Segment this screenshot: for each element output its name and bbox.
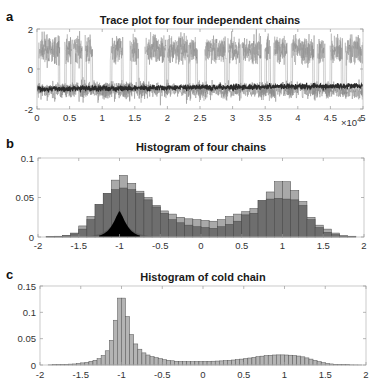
histogram-bar [136,194,144,237]
x-tick-label: 5 [360,112,365,123]
histogram-bar [217,227,225,237]
histogram-bar [240,359,244,365]
histogram-bar [293,356,297,365]
y-tick-label: 0 [29,232,34,243]
x-tick-label: 2 [165,112,170,123]
histogram-bar [117,298,121,365]
histogram-bar [244,359,248,365]
histogram-bar [142,353,146,365]
histogram-bar [177,223,185,237]
histogram-bar [79,229,87,237]
x-tick-label: 0 [34,112,39,123]
histogram-bar [313,360,317,365]
histogram-bar [280,355,284,365]
histogram-four-chains: -2-1.5-1-0.500.511.5200.050.1 [16,153,367,252]
histogram-bar [258,201,266,237]
histogram-bar [291,200,299,237]
x-tick-label: 4.5 [324,112,337,123]
x-tick-label: 1.5 [317,240,330,251]
histogram-bar [305,358,309,365]
x-tick-label: 2 [361,240,366,251]
x-tick-label: 2 [363,369,368,380]
x-tick-label: -1 [117,369,125,380]
x-tick-label: 0.5 [237,369,250,380]
axes-frame [40,286,366,365]
x-tick-label: 1 [280,240,285,251]
histogram-bar [323,232,331,237]
histogram-bar [215,361,219,365]
x-multiplier: ×104 [341,116,361,128]
histogram-bar [268,355,272,365]
figure: a Trace plot for four independent chains… [0,0,379,391]
histogram-bar [158,359,162,365]
histogram-bar [219,361,223,365]
histogram-bar [144,200,152,237]
histogram-bar [242,215,250,237]
histogram-bar [101,356,105,365]
x-tick-label: 2.5 [193,112,206,123]
y-tick-label: 0 [31,360,36,371]
y-tick-label: -2 [25,104,33,115]
x-tick-label: -0.5 [152,240,168,251]
histogram-bar [283,199,291,237]
histogram-bar [113,320,117,365]
histogram-bar [309,359,313,365]
x-tick-label: 0.5 [235,240,248,251]
histogram-bar [183,362,187,365]
histogram-bar [207,361,211,365]
x-tick-label: -2 [34,240,42,251]
y-tick-label: 0.05 [16,192,35,203]
histogram-bar [225,224,233,237]
panel-c-title: Histogram of cold chain [140,271,266,283]
histogram-bar [234,221,242,237]
y-tick-label: 2 [28,24,33,35]
histogram-bar [266,199,274,237]
trace-plot: 00.511.522.533.544.55-202 [25,24,366,124]
histogram-bar [201,228,209,237]
histogram-bar [122,298,126,365]
histogram-bar [71,234,79,237]
histogram-bar [301,357,305,365]
x-tick-label: 1.5 [319,369,332,380]
x-tick-label: 0 [200,369,205,380]
histogram-bar [162,360,166,365]
histogram-bar [264,356,268,365]
histogram-bar [250,213,258,237]
histogram-bar [179,361,183,365]
x-tick-label: 0 [198,240,203,251]
histogram-bar [160,213,168,237]
y-tick-label: 0.1 [23,307,36,318]
histogram-bar [146,355,150,365]
histogram-bar [317,362,321,365]
histogram-bar [126,317,130,365]
histogram-bar [195,362,199,365]
histogram-bar [109,340,113,365]
histogram-bar [276,355,280,365]
x-tick-label: 1 [100,112,105,123]
x-tick-label: 1 [282,369,287,380]
histogram-bar [232,360,236,365]
y-tick-label: 0 [28,64,33,75]
x-tick-label: 3.5 [259,112,272,123]
histogram-bar [191,362,195,365]
histogram-bar [154,358,158,365]
x-tick-label: -2 [36,369,44,380]
histogram-bar [315,228,323,237]
histogram-cold-chain: -2-1.5-1-0.500.511.5200.050.10.15 [18,281,369,381]
histogram-bar [105,351,109,365]
x-tick-label: -1.5 [71,240,87,251]
panel-label-a: a [6,9,14,24]
x-tick-label: 1.5 [128,112,141,123]
histogram-bar [174,361,178,365]
y-tick-label: 0.15 [18,281,37,292]
histogram-bar [166,360,170,365]
histogram-bar [272,355,276,365]
x-tick-label: 3 [230,112,235,123]
histogram-bar [193,227,201,237]
histogram-bar [170,361,174,365]
histogram-bar [299,205,307,237]
histogram-bar [199,361,203,365]
x-tick-label: -1 [115,240,123,251]
x-tick-label: 0.5 [63,112,76,123]
histogram-bar [187,362,191,365]
